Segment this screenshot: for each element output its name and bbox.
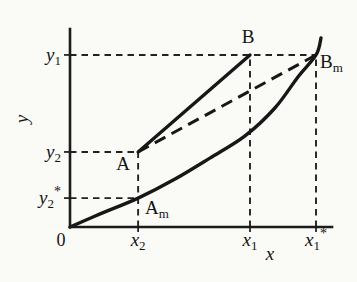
y-axis-title: y bbox=[11, 114, 32, 125]
label-sup: * bbox=[54, 184, 61, 199]
point-label-Am: Am bbox=[145, 197, 169, 221]
label-main: 0 bbox=[57, 230, 66, 250]
label-main: y bbox=[44, 141, 55, 162]
label-main: A bbox=[116, 153, 130, 174]
x-axis-title: x bbox=[265, 243, 275, 264]
label-sub: 2 bbox=[139, 238, 146, 253]
label-sup: * bbox=[320, 226, 327, 241]
secant-A-Bm bbox=[138, 55, 316, 152]
label-sub: m bbox=[333, 60, 343, 75]
label-main: B bbox=[320, 51, 333, 72]
figure-page: y1y2y2*x2x1x1*0ABAmBmxy bbox=[0, 0, 357, 282]
label-sub: 2 bbox=[55, 150, 62, 165]
point-label-B: B bbox=[242, 26, 255, 47]
label-sub: 1 bbox=[55, 53, 62, 68]
label-main: A bbox=[145, 197, 159, 218]
label-sub: 1 bbox=[251, 238, 258, 253]
chord-A-B bbox=[138, 55, 250, 152]
x-tick-label-0: x2 bbox=[130, 229, 146, 253]
label-main: y bbox=[44, 44, 55, 65]
label-sub: m bbox=[159, 206, 169, 221]
point-label-Bm: Bm bbox=[320, 51, 343, 75]
label-main: y bbox=[37, 187, 48, 208]
x-tick-label-1: x1 bbox=[242, 229, 258, 253]
label-main: x bbox=[265, 243, 275, 264]
diagram-svg: y1y2y2*x2x1x1*0ABAmBmxy bbox=[0, 0, 357, 282]
y-tick-label-0: y1 bbox=[44, 44, 61, 68]
label-main: B bbox=[242, 26, 255, 47]
origin-label: 0 bbox=[57, 230, 66, 250]
point-label-A: A bbox=[116, 153, 130, 174]
label-main: y bbox=[11, 114, 32, 125]
y-tick-label-2: y2* bbox=[37, 184, 61, 211]
y-tick-label-1: y2 bbox=[44, 141, 61, 165]
